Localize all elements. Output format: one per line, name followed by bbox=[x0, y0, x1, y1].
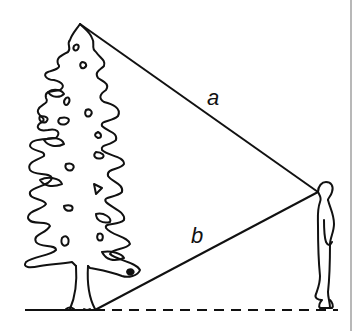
label-b: b bbox=[191, 225, 203, 247]
person-icon bbox=[315, 182, 334, 308]
diagram-svg bbox=[0, 0, 356, 331]
tree-icon bbox=[25, 24, 140, 310]
diagram-canvas: a b bbox=[0, 0, 356, 331]
line-b bbox=[95, 192, 318, 310]
label-a: a bbox=[207, 87, 219, 109]
